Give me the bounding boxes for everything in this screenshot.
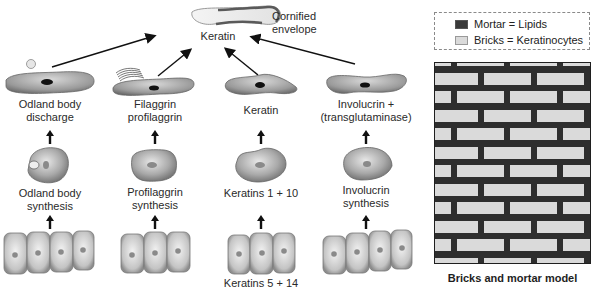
label-line: Filaggrin [110, 98, 200, 111]
brick [484, 184, 531, 196]
brick [510, 202, 557, 214]
up-arrows-upper [46, 130, 370, 144]
label-line: Keratins 1 + 10 [211, 187, 311, 200]
cornified-envelope-label: Cornified envelope [272, 10, 317, 36]
brick [457, 165, 504, 177]
involucrin-synthesis-label: Involucrin synthesis [321, 184, 411, 210]
profilaggrin-synthesis-label: Profilaggrin synthesis [110, 186, 200, 212]
brick [563, 239, 591, 251]
brick [434, 184, 478, 196]
keratin-top-label: Keratin [190, 30, 246, 43]
brick [590, 73, 591, 85]
brick [537, 258, 584, 265]
legend-label: Bricks = Keratinocytes [474, 34, 583, 46]
label-line: (transglutaminase) [311, 111, 421, 124]
basal-cells-group-4 [323, 230, 412, 274]
label-line: Keratin [216, 104, 306, 117]
keratin-cell-icon [225, 74, 297, 94]
label-line: synthesis [321, 197, 411, 210]
brick [510, 62, 557, 66]
brick [510, 165, 557, 177]
brick [590, 258, 591, 265]
brick [537, 110, 584, 122]
brick [537, 221, 584, 233]
legend-item-bricks: Bricks = Keratinocytes [455, 34, 583, 46]
filaggrin-cell-icon [113, 68, 194, 95]
brick [457, 128, 504, 140]
label-line: Odland body [5, 98, 95, 111]
label-line: synthesis [110, 199, 200, 212]
bricks-and-mortar-wall [434, 62, 591, 264]
brick [590, 221, 591, 233]
brick [434, 258, 478, 265]
brick [434, 202, 451, 214]
envelope-label-line2: envelope [272, 23, 317, 36]
brick [537, 147, 584, 159]
label-line: synthesis [5, 200, 95, 213]
mortar-swatch-icon [455, 20, 468, 29]
brick [537, 184, 584, 196]
involucrin-cell-icon [327, 74, 407, 93]
brick [434, 91, 451, 103]
brick [510, 128, 557, 140]
brick [457, 62, 504, 66]
brick [590, 147, 591, 159]
brick [484, 221, 531, 233]
label-line: Profilaggrin [110, 186, 200, 199]
brick [563, 165, 591, 177]
profilaggrin-synthesis-cell-icon [132, 150, 177, 182]
keratins-5-14-label: Keratins 5 + 14 [211, 277, 311, 290]
brick [484, 258, 531, 265]
brick [510, 91, 557, 103]
odland-synthesis-cell-icon [28, 148, 68, 183]
brick [457, 91, 504, 103]
brick [434, 73, 478, 85]
model-caption: Bricks and mortar model [434, 272, 591, 284]
odland-discharge-cell-icon [6, 60, 94, 94]
pathway-graphics [0, 0, 430, 293]
brick [563, 91, 591, 103]
brick [434, 147, 478, 159]
brick [563, 128, 591, 140]
label-line: Keratins 5 + 14 [211, 277, 311, 290]
brick [563, 202, 591, 214]
brick [457, 202, 504, 214]
brick [590, 110, 591, 122]
brick [434, 110, 478, 122]
brick [457, 239, 504, 251]
brick [434, 165, 451, 177]
brick [510, 239, 557, 251]
keratins-1-10-label: Keratins 1 + 10 [211, 187, 311, 200]
odland-discharge-label: Odland body discharge [5, 98, 95, 124]
brick [537, 73, 584, 85]
cornified-envelope-icon [192, 6, 281, 24]
brick [563, 62, 591, 66]
brick [434, 62, 451, 66]
label-line: Odland body [5, 187, 95, 200]
label-line: Involucrin [321, 184, 411, 197]
legend-label: Mortar = Lipids [474, 18, 547, 30]
envelope-label-line1: Cornified [272, 10, 317, 23]
brick [484, 73, 531, 85]
involucrin-transglutaminase-label: Involucrin + (transglutaminase) [311, 98, 421, 124]
basal-cells-group-2 [121, 232, 190, 273]
basal-cells-group-3 [228, 233, 295, 274]
involucrin-synthesis-cell-icon [344, 148, 392, 181]
label-line: profilaggrin [110, 111, 200, 124]
brick-swatch-icon [455, 36, 468, 45]
basal-cells-group-1 [4, 231, 94, 274]
brick [434, 128, 451, 140]
brick [434, 239, 451, 251]
brick [484, 147, 531, 159]
legend: Mortar = Lipids Bricks = Keratinocytes [434, 12, 590, 50]
odland-synthesis-label: Odland body synthesis [5, 187, 95, 213]
label-line: discharge [5, 111, 95, 124]
brick [484, 110, 531, 122]
brick [434, 221, 478, 233]
brick [590, 184, 591, 196]
keratins-1-10-cell-icon [236, 148, 286, 182]
up-arrows-lower [46, 215, 370, 229]
legend-item-mortar: Mortar = Lipids [455, 18, 547, 30]
label-line: Involucrin + [311, 98, 421, 111]
filaggrin-label: Filaggrin profilaggrin [110, 98, 200, 124]
